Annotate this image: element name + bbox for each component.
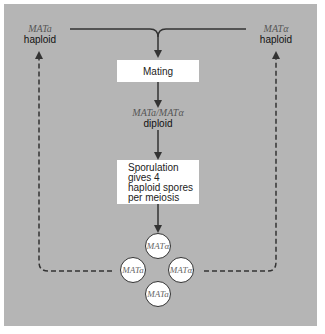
left-haploid-ploidy: haploid [22, 34, 58, 45]
right-haploid-ploidy: haploid [256, 34, 296, 45]
right-haploid-genotype: MATα [256, 23, 296, 34]
mating-box: Mating [117, 60, 199, 82]
sporulation-line-4: per meiosis [128, 193, 199, 203]
spore-left: MATa [120, 257, 146, 283]
spore-top: MATα [145, 233, 171, 259]
mating-label: Mating [143, 66, 173, 77]
left-haploid-genotype: MATa [22, 23, 58, 34]
right-haploid-label: MATα haploid [256, 23, 296, 45]
diploid-label: MATa/MATα diploid [118, 107, 198, 129]
spore-bottom: MATa [145, 281, 171, 307]
left-haploid-label: MATa haploid [22, 23, 58, 45]
diploid-genotype: MATa/MATα [118, 107, 198, 118]
diploid-ploidy: diploid [118, 118, 198, 129]
spore-right: MATα [168, 257, 194, 283]
sporulation-box: Sporulation gives 4 haploid spores per m… [117, 160, 199, 204]
